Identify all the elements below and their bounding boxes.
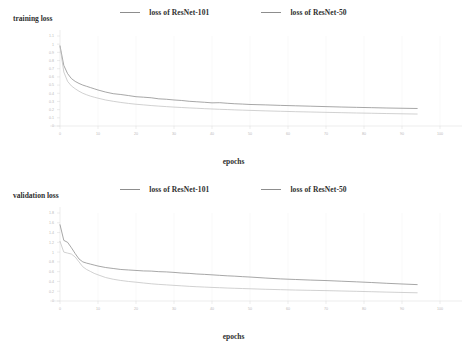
- x-tick-label: 70: [324, 132, 328, 136]
- legend-line-icon: [261, 12, 281, 13]
- validation-loss-chart: loss of ResNet-101 loss of ResNet-50 val…: [0, 177, 467, 354]
- x-tick-label: 30: [172, 132, 176, 136]
- x-tick-label: 100: [437, 132, 443, 136]
- x-tick-label: 10: [96, 132, 100, 136]
- x-tick-label: 60: [286, 307, 290, 311]
- y-tick-label: 0: [52, 299, 54, 303]
- y-tick-label: 0.6: [49, 270, 54, 274]
- x-tick-label: 20: [134, 132, 138, 136]
- x-tick-label: 80: [362, 132, 366, 136]
- y-tick-label: 1.1: [49, 34, 54, 38]
- x-tick-label: 60: [286, 132, 290, 136]
- y-tick-label: 1.6: [49, 221, 54, 225]
- x-tick-label: 10: [96, 307, 100, 311]
- series-line-resnet50: [60, 241, 417, 292]
- x-tick-label: 100: [437, 307, 443, 311]
- y-tick-label: 0.3: [49, 100, 54, 104]
- x-tick-label: 50: [248, 132, 252, 136]
- y-tick-label: 1: [52, 43, 54, 47]
- legend-label-resnet50: loss of ResNet-50: [290, 185, 346, 194]
- plot-area-validation: 1.81.61.41.210.80.60.40.2001020304050607…: [0, 205, 467, 323]
- x-axis-title-training: epochs: [0, 157, 467, 166]
- legend-item-resnet101: loss of ResNet-101: [120, 8, 209, 17]
- x-tick-label: 40: [210, 132, 214, 136]
- y-tick-label: 0.4: [49, 92, 54, 96]
- series-line-resnet101: [60, 225, 417, 285]
- legend-item-resnet101: loss of ResNet-101: [120, 185, 209, 194]
- legend-label-resnet101: loss of ResNet-101: [149, 185, 209, 194]
- y-tick-label: 0.9: [49, 51, 54, 55]
- y-axis-title-training: training loss: [13, 14, 52, 23]
- legend-label-resnet50: loss of ResNet-50: [290, 8, 346, 17]
- legend-training: loss of ResNet-101 loss of ResNet-50: [0, 4, 467, 20]
- series-line-resnet101: [60, 46, 417, 109]
- y-tick-label: 1.2: [49, 241, 54, 245]
- x-tick-label: 30: [172, 307, 176, 311]
- x-tick-label: 50: [248, 307, 252, 311]
- y-tick-label: 1: [52, 251, 54, 255]
- x-tick-label: 20: [134, 307, 138, 311]
- x-tick-label: 90: [400, 307, 404, 311]
- legend-line-icon: [120, 12, 140, 13]
- training-loss-chart: loss of ResNet-101 loss of ResNet-50 tra…: [0, 0, 467, 177]
- legend-item-resnet50: loss of ResNet-50: [261, 8, 346, 17]
- x-tick-label: 70: [324, 307, 328, 311]
- y-tick-label: 0.5: [49, 83, 54, 87]
- plot-area-training: 1.110.90.80.70.60.50.40.30.20.1001020304…: [0, 28, 467, 148]
- y-tick-label: 0.6: [49, 75, 54, 79]
- x-tick-label: 80: [362, 307, 366, 311]
- y-tick-label: 0.1: [49, 116, 54, 120]
- legend-validation: loss of ResNet-101 loss of ResNet-50: [0, 181, 467, 197]
- x-tick-label: 90: [400, 132, 404, 136]
- y-axis-title-validation: validation loss: [13, 191, 59, 200]
- x-tick-label: 0: [59, 132, 61, 136]
- x-tick-label: 0: [59, 307, 61, 311]
- legend-line-icon: [120, 189, 140, 190]
- y-tick-label: 0.7: [49, 67, 54, 71]
- legend-item-resnet50: loss of ResNet-50: [261, 185, 346, 194]
- y-tick-label: 0.8: [49, 260, 54, 264]
- y-tick-label: 0: [52, 124, 54, 128]
- y-tick-label: 0.4: [49, 280, 54, 284]
- x-axis-title-validation: epochs: [0, 332, 467, 341]
- y-tick-label: 1.4: [49, 231, 54, 235]
- y-tick-label: 1.8: [49, 211, 54, 215]
- y-tick-label: 0.2: [49, 290, 54, 294]
- x-tick-label: 40: [210, 307, 214, 311]
- legend-label-resnet101: loss of ResNet-101: [149, 8, 209, 17]
- y-tick-label: 0.8: [49, 59, 54, 63]
- y-tick-label: 0.2: [49, 108, 54, 112]
- legend-line-icon: [261, 189, 281, 190]
